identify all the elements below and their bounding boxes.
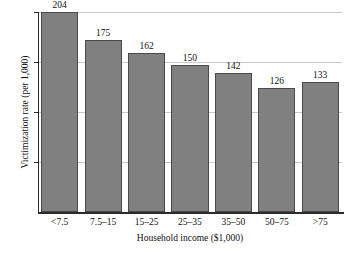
x-axis-line [38, 212, 344, 214]
bar-value-label: 204 [23, 0, 97, 11]
bar[interactable] [128, 53, 165, 212]
x-tick-label: 7.5–15 [85, 216, 122, 228]
bar[interactable] [215, 73, 252, 212]
x-tick-label: <7.5 [41, 216, 78, 228]
bar[interactable] [258, 88, 295, 212]
x-tick-label: 50–75 [258, 216, 295, 228]
bar-group: 204 [41, 12, 78, 212]
bar-group: 150 [171, 12, 208, 212]
bar-group: 142 [215, 12, 252, 212]
bar[interactable] [302, 82, 339, 212]
bar[interactable] [171, 65, 208, 212]
bar-group: 162 [128, 12, 165, 212]
x-tick-label: 15–25 [128, 216, 165, 228]
bar-group: 126 [258, 12, 295, 212]
bar[interactable] [85, 40, 122, 212]
x-axis-title: Household income ($1,000) [38, 233, 342, 243]
x-tick-label: 25–35 [171, 216, 208, 228]
bar-group: 133 [302, 12, 339, 212]
bar-chart-figure: 204 175 162 150 142 126 133 <7.5 [0, 0, 350, 262]
x-tick-label: 35–50 [215, 216, 252, 228]
bar-series: 204 175 162 150 142 126 133 [38, 12, 342, 212]
x-axis-tick-labels: <7.5 7.5–15 15–25 25–35 35–50 50–75 >75 [38, 216, 342, 228]
bar-value-label: 133 [283, 70, 350, 81]
y-axis-title: Victimization rate (per 1,000) [18, 12, 32, 212]
bar[interactable] [41, 12, 78, 212]
x-tick-label: >75 [302, 216, 339, 228]
